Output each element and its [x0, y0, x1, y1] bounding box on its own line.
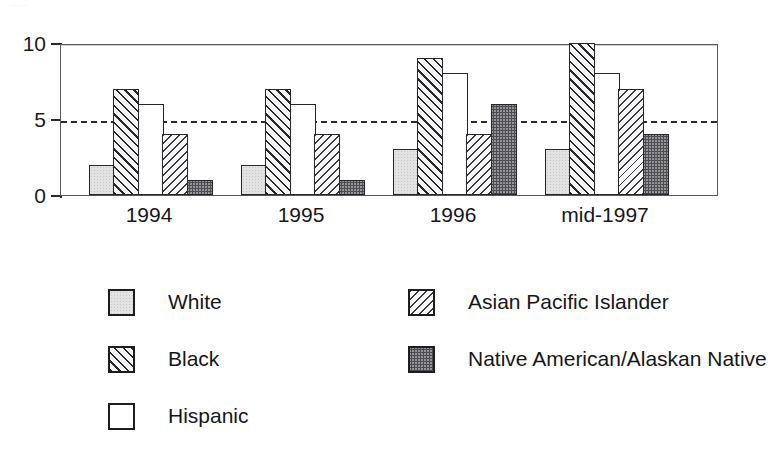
bar-mid-1997-black — [569, 43, 595, 195]
bar-1996-black — [417, 58, 443, 195]
bar-1995-black — [265, 89, 291, 195]
legend-item: White — [108, 283, 368, 340]
legend-label: Black — [168, 344, 219, 374]
bar-mid-1997-white — [545, 149, 571, 195]
legend-item: Asian Pacific Islander — [408, 283, 768, 340]
y-axis-tick-5 — [51, 119, 60, 121]
bar-1995-white — [241, 165, 267, 195]
legend-swatch-icon — [108, 289, 135, 316]
legend-swatch-icon — [108, 403, 135, 430]
y-axis-tick-10 — [51, 43, 60, 45]
bar-group-1996 — [393, 45, 523, 195]
bar-1996-native-american-alaskan-native — [491, 104, 517, 195]
y-axis-label-10: 10 — [23, 33, 46, 54]
bar-group-1994 — [89, 45, 219, 195]
bar-1996-white — [393, 149, 419, 195]
bar-mid-1997-native-american-alaskan-native — [643, 134, 669, 195]
y-axis-label-0: 0 — [34, 185, 46, 206]
y-axis-label-5: 5 — [34, 109, 46, 130]
legend-swatch-icon — [408, 289, 435, 316]
bar-1995-asian-pacific-islander — [314, 134, 340, 195]
bar-1996-asian-pacific-islander — [466, 134, 492, 195]
y-axis-tick-0 — [51, 195, 60, 197]
plot-area — [60, 44, 718, 196]
legend-label: Asian Pacific Islander — [468, 287, 669, 317]
bar-1996-hispanic — [442, 73, 468, 195]
bar-1994-asian-pacific-islander — [162, 134, 188, 195]
legend-label: White — [168, 287, 222, 317]
bar-1994-native-american-alaskan-native — [187, 180, 213, 195]
legend-swatch-icon — [408, 346, 435, 373]
bar-1994-white — [89, 165, 115, 195]
bar-group-1995 — [241, 45, 371, 195]
bar-chart-figure: ..... 0510 199419951996mid-1997 WhiteBla… — [0, 0, 768, 463]
bar-1995-native-american-alaskan-native — [339, 180, 365, 195]
bar-1994-black — [113, 89, 139, 195]
legend-label: Native American/Alaskan Native — [468, 344, 767, 374]
x-axis-label-mid-1997: mid-1997 — [515, 203, 695, 227]
legend-item: Hispanic — [108, 397, 368, 454]
bar-group-mid-1997 — [545, 45, 675, 195]
legend-item: Native American/Alaskan Native — [408, 340, 768, 397]
legend-column-left: WhiteBlackHispanic — [108, 283, 368, 454]
legend-label: Hispanic — [168, 401, 249, 431]
bar-1995-hispanic — [290, 104, 316, 195]
chart-legend: WhiteBlackHispanic Asian Pacific Islande… — [108, 283, 748, 443]
bar-1994-hispanic — [138, 104, 164, 195]
clipped-top-text-artifact: ..... — [10, 0, 70, 7]
legend-swatch-icon — [108, 346, 135, 373]
bar-mid-1997-asian-pacific-islander — [618, 89, 644, 195]
legend-column-right: Asian Pacific IslanderNative American/Al… — [408, 283, 768, 397]
legend-item: Black — [108, 340, 368, 397]
bar-mid-1997-hispanic — [594, 73, 620, 195]
